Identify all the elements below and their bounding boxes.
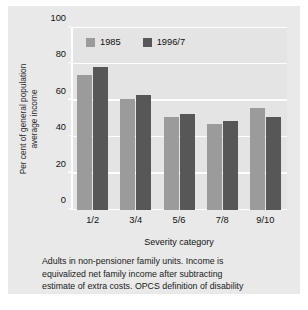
footnote-line: Adults in non-pensioner family units. In… [42, 255, 282, 268]
bar-1996-7-7-8[interactable] [223, 121, 238, 210]
legend-entry[interactable]: 1985 [86, 37, 121, 47]
bar-1985-5-6[interactable] [164, 117, 179, 210]
bar-group: 1/2 [71, 28, 114, 210]
bar-1996-7-1-2[interactable] [93, 67, 108, 210]
legend-label: 1985 [100, 37, 121, 47]
y-tick-label: 100 [50, 13, 66, 23]
chart-figure: Per cent of general population average i… [8, 6, 300, 294]
y-axis-title-line2: average income [29, 64, 40, 175]
x-tick-label: 1/2 [86, 215, 99, 225]
bar-1996-7-9-10[interactable] [266, 117, 281, 210]
bar-group: 5/6 [157, 28, 200, 210]
bar-1985-7-8[interactable] [207, 124, 222, 210]
bar-group: 9/10 [244, 28, 287, 210]
legend-label: 1996/7 [157, 37, 185, 47]
x-axis-title: Severity category [71, 237, 287, 247]
bar-1985-9-10[interactable] [250, 108, 265, 210]
y-tick-label: 60 [56, 86, 66, 96]
chart-footnote: Adults in non-pensioner family units. In… [42, 255, 282, 293]
y-tick-label: 80 [56, 49, 66, 59]
bar-series-container: 1/23/45/67/89/10 [71, 28, 287, 210]
y-tick-label: 20 [56, 159, 66, 169]
x-tick-label: 3/4 [129, 215, 142, 225]
x-tick-label: 7/8 [216, 215, 229, 225]
legend-swatch-icon [86, 38, 95, 47]
y-axis-title-line1: Per cent of general population [18, 64, 28, 175]
x-tick-label: 9/10 [256, 215, 274, 225]
bar-1985-1-2[interactable] [77, 75, 92, 210]
plot-area: 020406080100 1/23/45/67/89/10 [71, 28, 287, 210]
y-tick-label: 40 [56, 122, 66, 132]
bar-1985-3-4[interactable] [120, 99, 135, 210]
footnote-line: estimate of extra costs. OPCS definition… [42, 280, 282, 293]
bar-group: 7/8 [201, 28, 244, 210]
footnote-line: equivalized net family income after subt… [42, 268, 282, 281]
bar-1996-7-5-6[interactable] [180, 114, 195, 210]
legend-swatch-icon [143, 38, 152, 47]
y-tick-label: 0 [61, 195, 66, 205]
bar-1996-7-3-4[interactable] [136, 95, 151, 210]
x-tick-label: 5/6 [173, 215, 186, 225]
legend-entry[interactable]: 1996/7 [143, 37, 185, 47]
bar-group: 3/4 [114, 28, 157, 210]
y-axis-title: Per cent of general population average i… [14, 24, 44, 214]
chart-legend: 19851996/7 [86, 37, 185, 47]
